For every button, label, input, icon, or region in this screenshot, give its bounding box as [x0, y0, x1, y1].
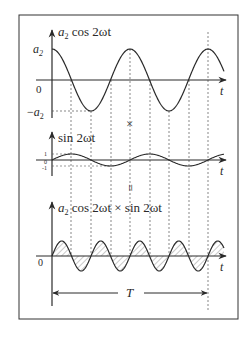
sin-tick-one: 1 — [44, 151, 47, 157]
figure: a2 cos 2ωt a2 0 −a2 t × sin 2ωt 1 0 -1 — [0, 0, 248, 337]
product-axis-label: a2 cos 2ωt × sin 2ωt — [58, 200, 162, 217]
waveform-diagram: a2 cos 2ωt a2 0 −a2 t × sin 2ωt 1 0 -1 — [0, 0, 248, 337]
cos-tick-zero: 0 — [36, 83, 42, 95]
cos-tick-a2: a2 — [33, 42, 43, 58]
product-t-label: t — [220, 260, 224, 274]
product-tick-zero: 0 — [38, 257, 43, 268]
sin-tick-neg-one: -1 — [42, 165, 47, 171]
sin-t-label: t — [220, 164, 224, 178]
period-T-label: T — [126, 285, 134, 300]
sin-axis-label: sin 2ωt — [58, 130, 95, 145]
guide-lines — [71, 32, 208, 310]
times-operator: × — [126, 116, 133, 131]
equals-operator: = — [123, 184, 138, 191]
cos-axis-label: a2 cos 2ωt — [58, 24, 111, 41]
panel-product: a2 cos 2ωt × sin 2ωt 0 t T — [36, 200, 226, 306]
cos-tick-neg-a2: −a2 — [27, 105, 44, 121]
panel-sin: sin 2ωt 1 0 -1 t — [36, 130, 226, 178]
panel-cos: a2 cos 2ωt a2 0 −a2 t — [27, 24, 226, 121]
cos-t-label: t — [220, 84, 224, 98]
